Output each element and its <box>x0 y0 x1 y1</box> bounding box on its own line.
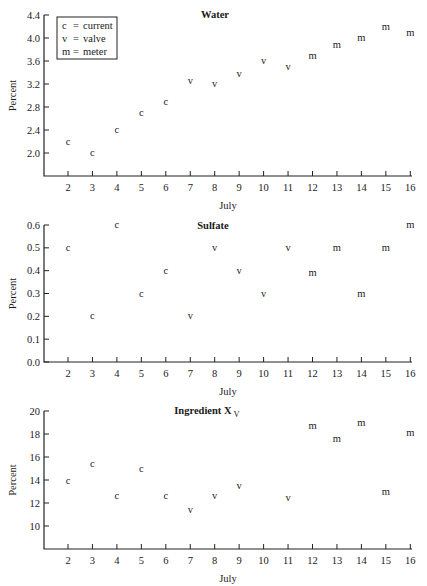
x-tick-label: 11 <box>283 182 293 193</box>
y-tick-label: 18 <box>30 429 41 440</box>
x-tick-label: 8 <box>212 555 217 566</box>
chart-panel-sulfate: 0.00.10.20.30.40.50.62345678910111213141… <box>7 219 416 397</box>
x-tick-label: 3 <box>90 555 95 566</box>
x-tick-label: 6 <box>163 555 168 566</box>
x-tick-label: 13 <box>332 182 343 193</box>
x-tick-label: 2 <box>65 368 70 379</box>
x-tick-label: 4 <box>114 368 120 379</box>
y-tick-label: 16 <box>30 452 41 463</box>
data-point-m: m <box>406 27 414 38</box>
data-point-v: v <box>212 242 218 253</box>
y-tick-label: 0.2 <box>27 311 40 322</box>
x-tick-label: 5 <box>139 182 144 193</box>
data-point-v: v <box>212 78 218 89</box>
data-point-m: m <box>357 32 365 43</box>
data-point-c: c <box>139 463 144 474</box>
data-point-v: v <box>188 75 194 86</box>
y-axis-label: Percent <box>7 464 18 496</box>
data-point-m: m <box>357 417 365 428</box>
data-point-c: c <box>90 458 95 469</box>
legend-symbol: c <box>62 20 67 31</box>
data-point-c: c <box>139 107 144 118</box>
data-point-v: v <box>285 492 291 503</box>
x-tick-label: 5 <box>139 555 144 566</box>
data-point-m: m <box>333 433 341 444</box>
x-tick-label: 3 <box>90 182 95 193</box>
data-point-v: v <box>188 504 194 515</box>
x-tick-label: 14 <box>356 555 367 566</box>
x-axis-label: July <box>219 200 237 211</box>
x-tick-label: 12 <box>307 182 318 193</box>
data-point-m: m <box>308 50 316 61</box>
x-tick-label: 10 <box>258 368 269 379</box>
x-tick-label: 14 <box>356 368 367 379</box>
data-point-c: c <box>90 310 95 321</box>
x-tick-label: 6 <box>163 368 168 379</box>
data-point-v: v <box>237 265 243 276</box>
chart-panel-ingredient-x: 1012141618202345678910111213141516JulyPe… <box>7 405 416 584</box>
legend-symbol: v <box>62 33 68 44</box>
y-axis-label: Percent <box>7 80 18 112</box>
legend-symbol: m <box>62 46 70 57</box>
data-point-c: c <box>66 475 71 486</box>
x-tick-label: 15 <box>381 182 392 193</box>
data-point-v: v <box>237 68 243 79</box>
chart-title: Ingredient XV <box>174 405 240 419</box>
legend-label: current <box>83 20 113 31</box>
data-point-c: c <box>163 265 168 276</box>
data-point-c: c <box>139 288 144 299</box>
x-tick-label: 9 <box>237 182 242 193</box>
y-axis-label: Percent <box>7 278 18 310</box>
data-point-c: c <box>115 124 120 135</box>
x-tick-label: 7 <box>188 368 193 379</box>
y-tick-label: 2.4 <box>27 125 41 136</box>
x-tick-label: 13 <box>332 555 343 566</box>
x-tick-label: 6 <box>163 182 168 193</box>
x-tick-label: 11 <box>283 555 293 566</box>
data-point-m: m <box>308 420 316 431</box>
chart-panel-water: 2.02.42.83.23.64.04.42345678910111213141… <box>7 9 416 211</box>
title-subscript: V <box>234 409 241 419</box>
data-point-m: m <box>333 242 341 253</box>
x-tick-label: 16 <box>405 182 416 193</box>
x-tick-label: 14 <box>356 182 367 193</box>
y-tick-label: 0.0 <box>27 357 40 368</box>
axes <box>44 411 412 549</box>
data-point-m: m <box>406 427 414 438</box>
data-point-v: v <box>237 480 243 491</box>
legend: c=currentv=valvem=meter <box>57 17 117 59</box>
y-tick-label: 4.4 <box>27 10 41 21</box>
x-tick-label: 15 <box>381 368 392 379</box>
legend-label: valve <box>83 33 106 44</box>
x-tick-label: 9 <box>237 555 242 566</box>
y-tick-label: 12 <box>30 498 41 509</box>
x-axis-label: July <box>219 573 237 584</box>
figure: 2.02.42.83.23.64.04.42345678910111213141… <box>0 0 427 586</box>
y-tick-label: 14 <box>30 475 41 486</box>
legend-equals: = <box>73 33 79 44</box>
data-point-m: m <box>382 486 390 497</box>
data-point-m: m <box>382 242 390 253</box>
x-tick-label: 8 <box>212 182 217 193</box>
x-tick-label: 11 <box>283 368 293 379</box>
x-tick-label: 4 <box>114 182 120 193</box>
legend-equals: = <box>73 20 79 31</box>
x-tick-label: 7 <box>188 182 193 193</box>
x-tick-label: 12 <box>307 368 318 379</box>
x-axis-label: July <box>219 386 237 397</box>
data-point-c: c <box>163 96 168 107</box>
data-point-v: v <box>261 288 267 299</box>
chart-title: Sulfate <box>197 220 229 231</box>
x-tick-label: 2 <box>65 182 70 193</box>
data-point-c: c <box>66 136 71 147</box>
x-tick-label: 13 <box>332 368 343 379</box>
data-point-v: v <box>188 310 194 321</box>
y-tick-label: 3.2 <box>27 79 40 90</box>
x-tick-label: 16 <box>405 555 416 566</box>
data-point-v: v <box>285 242 291 253</box>
x-tick-label: 12 <box>307 555 318 566</box>
data-point-c: c <box>163 490 168 501</box>
data-point-v: v <box>212 490 218 501</box>
legend-equals: = <box>73 46 79 57</box>
y-tick-label: 0.6 <box>27 220 40 231</box>
